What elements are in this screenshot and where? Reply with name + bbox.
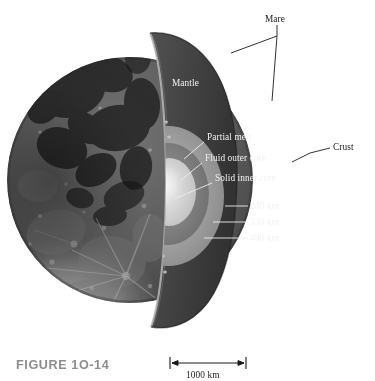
- label-crust: Crust: [333, 142, 354, 152]
- label-mantle: Mantle: [172, 78, 199, 88]
- label-depth-480: 480 km: [250, 233, 279, 243]
- scale-bar-label: 1000 km: [186, 370, 220, 380]
- figure-container: Mare Mantle Crust Partial melt Fluid out…: [0, 0, 375, 381]
- label-partial-melt: Partial melt: [207, 132, 252, 142]
- mare-leader-lines: [231, 25, 277, 101]
- label-depth-330: 330 km: [250, 217, 279, 227]
- figure-caption: FIGURE 1O-14: [16, 358, 109, 372]
- label-fluid-outer-core: Fluid outer core: [205, 153, 266, 163]
- label-depth-240: 240 km: [250, 201, 279, 211]
- label-solid-inner-core: Solid inner core: [215, 173, 276, 183]
- moon-cutaway-diagram: Mare Mantle Crust Partial melt Fluid out…: [0, 0, 375, 381]
- scale-bar: [170, 357, 246, 369]
- crust-leader-line: [292, 148, 330, 162]
- label-mare: Mare: [265, 14, 285, 24]
